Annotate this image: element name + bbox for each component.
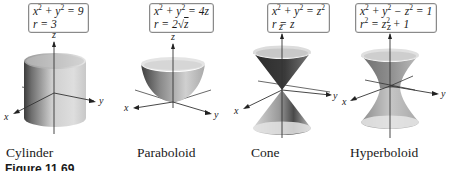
equation-polar: r = 3 bbox=[33, 18, 84, 31]
z-axis-label: z bbox=[51, 29, 56, 40]
x-axis-label: x bbox=[233, 105, 239, 116]
equation-box-cylinder: x2 + y2 = 9 r = 3 bbox=[28, 3, 89, 33]
equation-box-hyperboloid: x2 + y2 − z2 = 1 r2 = z2 + 1 bbox=[355, 3, 437, 33]
y-axis-label: y bbox=[98, 95, 104, 106]
equation-polar: r = 2√z bbox=[154, 18, 209, 31]
cone-y-axis-label-graphic: y bbox=[330, 88, 350, 108]
panel-cone: x2 + y2 = z2 r = z z bbox=[230, 0, 335, 171]
equation-rectangular: x2 + y2 − z2 = 1 bbox=[360, 5, 432, 18]
y-axis-label: y bbox=[440, 88, 446, 99]
caption-hyperboloid: Hyperboloid bbox=[350, 145, 418, 161]
x-axis-label: x bbox=[3, 111, 9, 122]
cylinder-surface-graphic: z y x bbox=[0, 38, 115, 148]
z-axis-label: z bbox=[386, 21, 391, 32]
panel-paraboloid: x2 + y2 = 4z r = 2√z z y x Paraboloid bbox=[115, 0, 230, 171]
figure-label: Figure 11.69 bbox=[5, 162, 74, 171]
z-axis-label: z bbox=[170, 31, 175, 42]
hyperboloid-surface-graphic: z y x bbox=[335, 38, 449, 143]
equation-polar: r2 = z2 + 1 bbox=[360, 18, 432, 31]
equation-rectangular: x2 + y2 = 9 bbox=[33, 5, 84, 18]
panel-cylinder: x2 + y2 = 9 r = 3 z y bbox=[0, 0, 115, 171]
paraboloid-surface-graphic: z y x bbox=[115, 38, 230, 138]
caption-paraboloid: Paraboloid bbox=[137, 145, 196, 161]
z-axis-label: z bbox=[278, 21, 283, 32]
y-axis-label: y bbox=[332, 90, 338, 101]
caption-cylinder: Cylinder bbox=[6, 145, 53, 161]
equation-box-cone: x2 + y2 = z2 r = z bbox=[267, 3, 330, 33]
equation-rectangular: x2 + y2 = z2 bbox=[272, 5, 325, 18]
x-axis-label: x bbox=[123, 102, 129, 113]
panel-hyperboloid: x2 + y2 − z2 = 1 r2 = z2 + 1 z bbox=[335, 0, 449, 171]
y-axis-label: y bbox=[213, 109, 219, 120]
caption-cone: Cone bbox=[251, 145, 280, 161]
equation-rectangular: x2 + y2 = 4z bbox=[154, 5, 209, 18]
cone-surface-graphic: z x bbox=[230, 38, 335, 143]
equation-box-paraboloid: x2 + y2 = 4z r = 2√z bbox=[149, 3, 214, 33]
